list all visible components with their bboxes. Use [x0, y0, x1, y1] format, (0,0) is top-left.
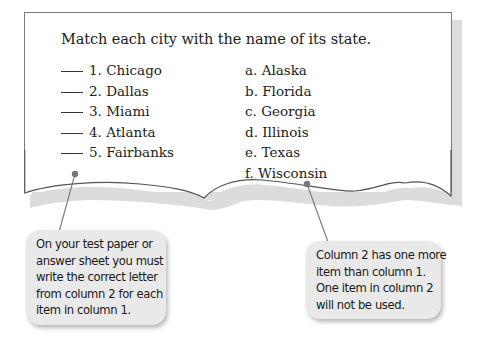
column-1-cities: 1. Chicago 2. Dallas 3. Miami 4. Atlanta… — [61, 60, 174, 163]
state-item: e. Texas — [245, 142, 327, 163]
callout-text-line: On your test paper or — [36, 236, 156, 253]
city-item: 1. Chicago — [61, 60, 174, 81]
answer-blank[interactable] — [61, 92, 83, 93]
item-letter: c. — [245, 103, 257, 119]
item-letter: e. — [245, 144, 257, 160]
answer-blank[interactable] — [61, 112, 83, 113]
item-letter: a. — [245, 62, 257, 78]
city-name: Dallas — [106, 83, 148, 99]
item-number: 1. — [89, 62, 102, 78]
city-name: Fairbanks — [106, 144, 174, 160]
callout-left-note: On your test paper or answer sheet you m… — [26, 230, 166, 325]
state-item: a. Alaska — [245, 60, 327, 81]
item-letter: d. — [245, 124, 258, 140]
state-item: f. Wisconsin — [245, 163, 327, 184]
state-item: b. Florida — [245, 81, 327, 102]
instruction-text: Match each city with the name of its sta… — [61, 31, 371, 47]
answer-blank[interactable] — [61, 153, 83, 154]
state-name: Florida — [262, 83, 311, 99]
city-item: 4. Atlanta — [61, 122, 174, 143]
callout-text-line: from column 2 for each — [36, 286, 156, 303]
item-number: 4. — [89, 124, 102, 140]
callout-text-line: answer sheet you must — [36, 253, 156, 270]
state-name: Illinois — [262, 124, 308, 140]
callout-text-line: write the correct letter — [36, 269, 156, 286]
city-item: 2. Dallas — [61, 81, 174, 102]
city-name: Miami — [106, 103, 149, 119]
state-item: c. Georgia — [245, 101, 327, 122]
item-letter: b. — [245, 83, 258, 99]
callout-text-line: item than column 1. — [316, 264, 431, 281]
item-number: 5. — [89, 144, 102, 160]
callout-text-line: One item in column 2 — [316, 280, 431, 297]
column-2-states: a. Alaska b. Florida c. Georgia d. Illin… — [245, 60, 327, 183]
item-number: 3. — [89, 103, 102, 119]
city-name: Atlanta — [106, 124, 155, 140]
item-letter: f. — [245, 165, 254, 181]
state-name: Alaska — [262, 62, 307, 78]
city-item: 3. Miami — [61, 101, 174, 122]
callout-text-line: item in column 1. — [36, 302, 156, 319]
state-item: d. Illinois — [245, 122, 327, 143]
state-name: Texas — [262, 144, 301, 160]
state-name: Georgia — [261, 103, 315, 119]
callout-text-line: Column 2 has one more — [316, 247, 431, 264]
state-name: Wisconsin — [258, 165, 327, 181]
callout-text-line: will not be used. — [316, 297, 431, 314]
city-name: Chicago — [106, 62, 162, 78]
answer-blank[interactable] — [61, 71, 83, 72]
answer-blank[interactable] — [61, 133, 83, 134]
callout-right-note: Column 2 has one more item than column 1… — [306, 241, 441, 319]
item-number: 2. — [89, 83, 102, 99]
city-item: 5. Fairbanks — [61, 142, 174, 163]
